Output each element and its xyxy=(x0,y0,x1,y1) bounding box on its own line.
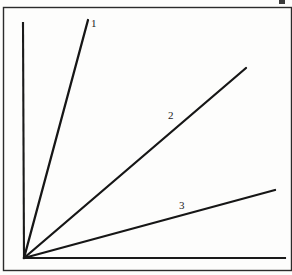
ray-label-1: 1 xyxy=(91,18,97,29)
ray-diagram-canvas xyxy=(0,0,292,275)
ray-line-3 xyxy=(24,190,275,258)
ray-line-2 xyxy=(24,68,246,258)
figure-outer-border xyxy=(4,8,292,271)
page-corner-mark xyxy=(279,0,285,4)
ray-label-3: 3 xyxy=(179,200,185,211)
ray-label-2: 2 xyxy=(168,110,174,121)
ray-line-1 xyxy=(24,20,88,258)
figure-container: 1 2 3 xyxy=(0,0,292,275)
y-axis-line xyxy=(23,23,24,258)
